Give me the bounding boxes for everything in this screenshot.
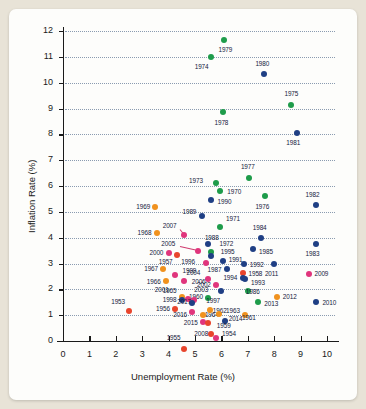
data-point-label-1966: 1966 (145, 278, 161, 285)
data-point-label-1996: 1996 (179, 258, 195, 265)
y-tick-label-6: 6 (37, 180, 53, 190)
data-point-1983 (313, 241, 319, 247)
y-tick-label-2: 2 (37, 283, 53, 293)
data-point-label-1985: 1985 (259, 248, 273, 255)
data-point-label-1995: 1995 (221, 248, 235, 255)
data-point-label-1973: 1973 (187, 177, 203, 184)
data-point-1980 (261, 71, 267, 77)
data-point-label-2014: 2014 (229, 315, 243, 322)
x-tick-label-7: 7 (240, 349, 256, 359)
data-point-label-1976: 1976 (254, 203, 270, 210)
data-point-label-1984: 1984 (252, 224, 268, 231)
x-tick-label-8: 8 (266, 349, 282, 359)
y-tick-label-7: 7 (37, 154, 53, 164)
data-point-1981 (294, 130, 300, 136)
y-tick-2 (59, 289, 63, 290)
data-point-1978 (220, 109, 226, 115)
y-axis-title: Inflation Rate (%) (26, 159, 37, 232)
x-tick-label-3: 3 (134, 349, 150, 359)
x-tick-label-6: 6 (213, 349, 229, 359)
data-point-1968 (154, 230, 160, 236)
data-point-label-1955: 1955 (164, 334, 180, 341)
data-point-label-1969: 1969 (134, 203, 150, 210)
y-tick-label-0: 0 (37, 335, 53, 345)
y-tick-12 (59, 31, 63, 32)
data-point-label-1972: 1972 (219, 240, 233, 247)
x-tick-label-4: 4 (161, 349, 177, 359)
x-axis-title: Unemployment Rate (%) (0, 371, 366, 382)
data-point-label-1993: 1993 (251, 279, 265, 286)
y-tick-label-3: 3 (37, 258, 53, 268)
data-point-label-1975: 1975 (283, 90, 299, 97)
data-point-2006 (181, 278, 187, 284)
data-point-label-1983: 1983 (304, 250, 320, 257)
data-point-1976 (262, 193, 268, 199)
y-tick-label-9: 9 (37, 103, 53, 113)
data-point-1988 (205, 241, 211, 247)
data-point-label-1974: 1974 (194, 63, 210, 70)
data-point-label-1959: 1959 (217, 322, 231, 329)
data-point-label-2007: 2007 (161, 222, 177, 229)
data-point-label-2000: 2000 (147, 249, 163, 256)
data-point-label-1977: 1977 (240, 163, 256, 170)
gridline-y-9 (65, 109, 335, 110)
data-point-label-1967: 1967 (142, 265, 158, 272)
y-tick-11 (59, 57, 63, 58)
data-point-label-1956: 1956 (154, 305, 170, 312)
data-point-label-2015: 2015 (182, 319, 198, 326)
data-point-label-1979: 1979 (217, 46, 233, 53)
x-tick-10 (327, 336, 328, 341)
data-point-label-2010: 2010 (322, 299, 336, 306)
data-point-1969 (152, 204, 158, 210)
data-point-label-2012: 2012 (283, 293, 297, 300)
y-tick-label-12: 12 (37, 25, 53, 35)
y-tick-4 (59, 238, 63, 239)
data-point-label-1997: 1997 (206, 297, 220, 304)
data-point-1959 (205, 320, 211, 326)
data-point-label-1992: 1992 (250, 261, 264, 268)
data-point-2013 (255, 299, 261, 305)
data-point-label-1970: 1970 (227, 188, 241, 195)
image-background: 0123456789101112012345678910197919741980… (0, 0, 366, 409)
data-point-label-2011: 2011 (264, 270, 280, 277)
data-point-label-2017: 2017 (175, 298, 191, 305)
data-point-2005 (195, 248, 201, 254)
x-tick-label-2: 2 (108, 349, 124, 359)
data-point-1963 (216, 311, 222, 317)
y-tick-7 (59, 160, 63, 161)
y-tick-6 (59, 186, 63, 187)
gridline-y-7 (65, 160, 335, 161)
data-point-label-1971: 1971 (226, 215, 240, 222)
data-point-label-1986: 1986 (246, 288, 260, 295)
data-point-1962 (207, 307, 213, 313)
x-tick-label-9: 9 (293, 349, 309, 359)
y-tick-0 (59, 341, 63, 342)
data-point-label-2016: 2016 (171, 311, 187, 318)
data-point-label-2008: 2008 (192, 330, 208, 337)
gridline-y-11 (65, 57, 335, 58)
data-point-label-1990: 1990 (218, 198, 232, 205)
data-point-label-1981: 1981 (285, 139, 301, 146)
x-tick-label-5: 5 (187, 349, 203, 359)
data-point-label-1968: 1968 (135, 229, 151, 236)
data-point-label-2005: 2005 (159, 240, 175, 247)
label-leader-line-1 (180, 246, 196, 251)
data-point-label-1980: 1980 (254, 60, 270, 67)
data-point-label-1982: 1982 (304, 191, 320, 198)
data-point-1982 (313, 202, 319, 208)
data-point-1953 (126, 308, 132, 314)
data-point-2002 (213, 282, 219, 288)
data-point-2010 (313, 299, 319, 305)
data-point-label-1963: 1963 (226, 307, 240, 314)
phillips-curve-scatter-chart: 0123456789101112012345678910197919741980… (0, 0, 366, 409)
data-point-2009 (306, 271, 312, 277)
y-tick-label-5: 5 (37, 206, 53, 216)
y-tick-label-1: 1 (37, 309, 53, 319)
data-point-1984 (258, 235, 264, 241)
data-point-1995 (208, 253, 214, 259)
data-point-1971 (217, 224, 223, 230)
x-tick-3 (142, 336, 143, 341)
gridline-y-6 (65, 186, 335, 187)
data-point-label-2004: 2004 (184, 269, 200, 276)
y-tick-3 (59, 264, 63, 265)
